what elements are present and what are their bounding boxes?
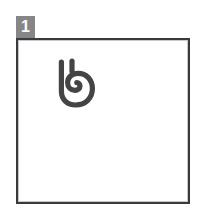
screenshot-stage: 1	[0, 0, 206, 215]
panel-canvas	[18, 40, 188, 202]
spiral-glyph	[56, 58, 102, 108]
bordered-panel	[16, 38, 190, 204]
panel-index-badge-label: 1	[21, 19, 30, 35]
spiral-glyph-path	[61, 62, 92, 105]
spiral-glyph-drawing	[56, 58, 102, 108]
panel-index-badge: 1	[16, 16, 35, 38]
